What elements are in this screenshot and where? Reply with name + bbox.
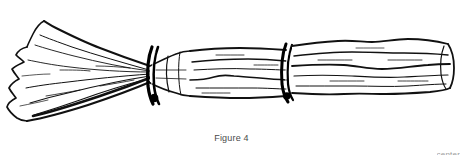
handle-shaft-mid-fill (190, 48, 286, 98)
binding-band-1-knot (150, 94, 158, 102)
handle-shaft-right (292, 39, 454, 94)
binding-band-2-knot (283, 92, 291, 100)
page-footer-fragment: center (437, 150, 460, 155)
handle-shaft-mid (190, 48, 286, 98)
figure-page: Figure 4 center (0, 0, 463, 155)
figure-caption: Figure 4 (0, 132, 463, 144)
